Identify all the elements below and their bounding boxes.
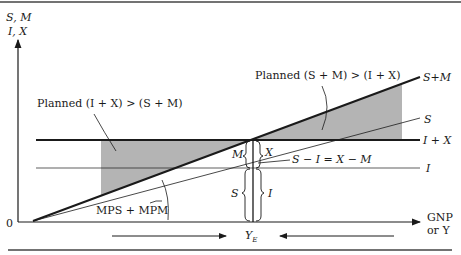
right-region-label: Planned (S + M) > (I + X)	[255, 70, 400, 81]
brace-x-label: X	[265, 147, 273, 158]
y-axis-label-bottom: I, X	[8, 26, 27, 37]
leader-identity	[258, 160, 290, 163]
brace-i-label: I	[268, 188, 272, 199]
diagram-canvas	[0, 0, 461, 255]
slope-label: MPS + MPM	[96, 205, 168, 216]
s-line	[33, 118, 420, 221]
i-plus-x-label: I + X	[423, 135, 451, 146]
brace-s-label: S	[231, 188, 239, 199]
brace-s	[242, 169, 250, 221]
i-label: I	[426, 163, 430, 174]
equilibrium-label: YE	[245, 230, 257, 244]
identity-label: S − I = X − M	[292, 154, 372, 165]
brace-x	[256, 141, 263, 168]
equilibrium-subscript: E	[252, 236, 257, 244]
brace-m-label: M	[232, 149, 243, 160]
y-axis-label-top: S, M	[6, 12, 31, 23]
brace-i	[256, 169, 264, 221]
x-axis-label-bottom: or Y	[427, 225, 450, 236]
x-axis-label-top: GNP	[427, 212, 453, 223]
left-region-label: Planned (I + X) > (S + M)	[37, 98, 182, 109]
origin-label: 0	[6, 218, 13, 229]
slope-leader	[150, 201, 162, 203]
s-label: S	[424, 114, 432, 125]
s-plus-m-label: S+M	[423, 72, 451, 83]
